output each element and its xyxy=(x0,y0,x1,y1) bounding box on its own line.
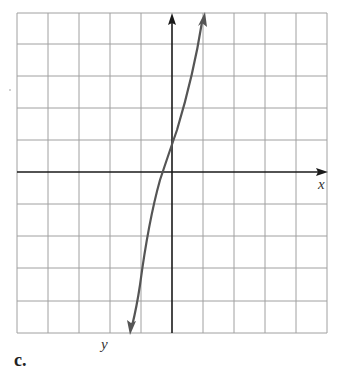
y-axis-label: y xyxy=(101,336,108,353)
speck xyxy=(9,89,11,91)
part-label: c. xyxy=(14,350,27,367)
x-axis-label: x xyxy=(318,176,325,193)
graph-canvas xyxy=(0,0,337,367)
function-curve xyxy=(127,12,207,335)
y-axis xyxy=(168,13,176,333)
